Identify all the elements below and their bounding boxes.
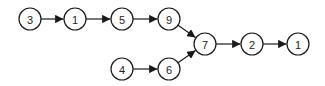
node-n6: 6: [158, 58, 180, 80]
edge-n9-to-n7: [178, 25, 196, 37]
node-label: 5: [119, 14, 125, 26]
node-n9: 9: [158, 8, 180, 30]
node-n3a: 3: [19, 8, 41, 30]
node-label: 6: [166, 64, 172, 76]
node-label: 3: [27, 14, 33, 26]
node-label: 7: [202, 39, 208, 51]
edge-n6-to-n7: [178, 51, 196, 63]
node-n1a: 1: [64, 8, 86, 30]
directed-graph: 315946721: [0, 0, 325, 86]
node-label: 9: [166, 14, 172, 26]
node-label: 1: [72, 14, 78, 26]
node-n1b: 1: [287, 33, 309, 55]
node-label: 2: [249, 39, 255, 51]
node-label: 4: [119, 64, 125, 76]
node-label: 1: [295, 39, 301, 51]
node-n5: 5: [111, 8, 133, 30]
node-n4: 4: [111, 58, 133, 80]
node-n7: 7: [194, 33, 216, 55]
node-n2: 2: [241, 33, 263, 55]
